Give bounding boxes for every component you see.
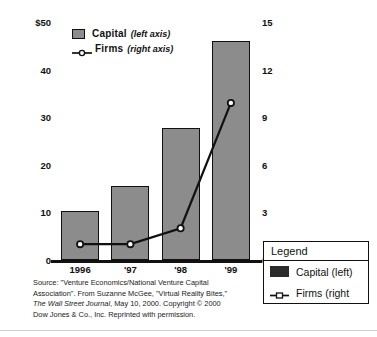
firms-line-path xyxy=(80,103,231,244)
y-tick-left-2: 30 xyxy=(40,113,51,123)
line-marker-icon xyxy=(72,44,92,54)
source-line-4: Dow Jones & Co., Inc. Reprinted with per… xyxy=(33,310,248,321)
y-tick-right-3: 6 xyxy=(262,161,267,171)
firms-marker-1996 xyxy=(77,241,83,247)
y-axis-left: $50403020100 xyxy=(16,22,51,260)
square-swatch-icon xyxy=(72,29,85,39)
inline-legend-axis-capital: (left axis) xyxy=(131,29,171,39)
inline-legend: Capital (left axis) Firms (right axis) xyxy=(72,26,173,56)
y-tick-left-4: 10 xyxy=(40,208,51,218)
inline-legend-label-firms: Firms xyxy=(95,43,123,54)
filled-square-icon xyxy=(270,266,289,277)
y-tick-right-2: 9 xyxy=(262,113,267,123)
source-note: Source: "Venture Economics/National Vent… xyxy=(33,278,248,320)
inline-legend-item-capital: Capital (left axis) xyxy=(72,26,173,41)
y-tick-left-0: $50 xyxy=(35,18,51,28)
x-axis-baseline xyxy=(51,260,262,263)
bottom-divider xyxy=(0,330,377,331)
legend-label-firms: Firms (right xyxy=(296,287,349,299)
legend-title: Legend xyxy=(264,242,368,261)
source-line-1: Source: "Venture Economics/National Vent… xyxy=(33,278,248,289)
y-tick-right-1: 12 xyxy=(262,66,273,76)
y-tick-left-3: 20 xyxy=(40,161,51,171)
y-tick-right-0: 15 xyxy=(262,18,273,28)
y-tick-right-4: 3 xyxy=(262,208,267,218)
x-tick-97: '97 xyxy=(105,265,155,275)
inline-legend-axis-firms: (right axis) xyxy=(127,44,173,54)
source-line-3: The Wall Street Journal, May 10, 2000. C… xyxy=(33,299,248,310)
x-tick-99: '99 xyxy=(206,265,256,275)
source-line-2: Association". From Suzanne McGee, "Virtu… xyxy=(33,289,248,300)
firms-marker-97 xyxy=(127,241,133,247)
firms-marker-99 xyxy=(228,100,234,106)
source-publication: The Wall Street Journal xyxy=(33,299,110,308)
source-line-3-rest: , May 10, 2000. Copyright © 2000 xyxy=(110,299,221,308)
legend-row-capital: Capital (left) xyxy=(264,261,368,282)
firms-marker-98 xyxy=(178,225,184,231)
inline-legend-item-firms: Firms (right axis) xyxy=(72,41,173,56)
y-tick-left-1: 40 xyxy=(40,66,51,76)
firms-line-series xyxy=(55,22,256,260)
x-tick-98: '98 xyxy=(156,265,206,275)
chart-figure: $50403020100 15129630 1996'97'98'99 Capi… xyxy=(0,0,377,337)
line-marker-icon xyxy=(270,287,289,298)
legend-box: Legend Capital (left) Firms (right xyxy=(263,241,369,304)
x-tick-1996: 1996 xyxy=(55,265,105,275)
legend-row-firms: Firms (right xyxy=(264,282,368,303)
y-axis-right: 15129630 xyxy=(262,22,284,260)
legend-label-capital: Capital (left) xyxy=(296,266,353,278)
inline-legend-label-capital: Capital xyxy=(92,28,127,39)
